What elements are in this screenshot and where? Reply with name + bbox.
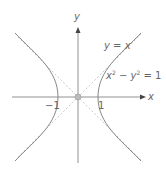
curve-equation-label: x2 − y2 = 1 (106, 70, 161, 81)
tick-label-neg-one: −1 (45, 101, 60, 111)
x-axis-arrow-icon (140, 95, 146, 100)
eq-rhs: = 1 (140, 70, 161, 81)
y-axis-label: y (74, 12, 80, 22)
asymptote-y-equals-neg-x (18, 37, 143, 162)
asymptote-label: y = x (104, 41, 131, 51)
hyperbola-plot (0, 0, 166, 173)
eq-minus-y: − y (116, 70, 137, 81)
y-axis-arrow-icon (76, 27, 81, 33)
origin-marker (75, 94, 81, 100)
x-axis-label: x (148, 92, 154, 102)
tick-label-one: 1 (98, 101, 104, 111)
